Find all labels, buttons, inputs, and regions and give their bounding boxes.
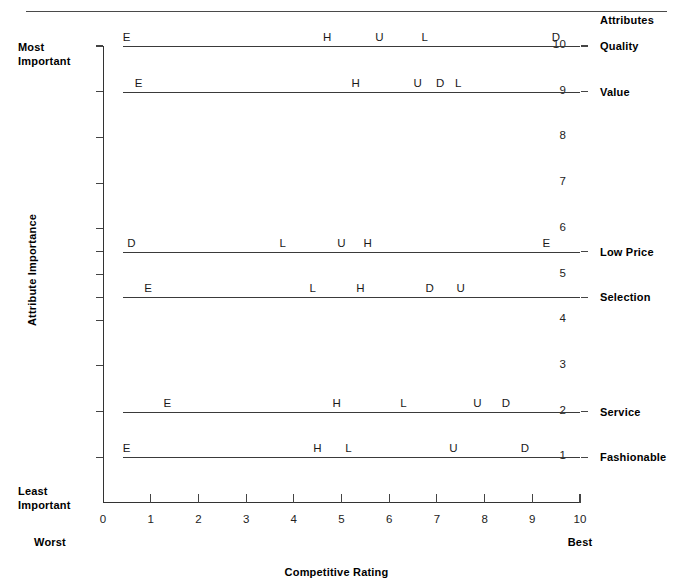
x-axis-high-label: Best xyxy=(530,536,630,548)
data-marker-L: L xyxy=(422,31,429,43)
data-marker-L: L xyxy=(279,237,286,249)
data-marker-H: H xyxy=(323,31,332,43)
data-marker-D: D xyxy=(502,397,511,409)
data-marker-H: H xyxy=(356,282,365,294)
plot-area: 12345678910 012345678910 QualityEHULDVal… xyxy=(103,46,580,503)
series-label-fashionable: Fashionable xyxy=(600,451,666,463)
data-marker-L: L xyxy=(455,77,462,89)
series-right-tick xyxy=(581,411,588,412)
series-axis-tick xyxy=(96,411,103,412)
series-line xyxy=(123,457,580,458)
x-tick-label-8: 8 xyxy=(465,513,505,525)
y-axis-low-label-line2: Important xyxy=(18,499,71,511)
x-tick-label-2: 2 xyxy=(178,513,218,525)
x-tick-label-3: 3 xyxy=(226,513,266,525)
x-tick-3 xyxy=(246,494,247,503)
y-tick-3 xyxy=(96,365,103,366)
y-tick-label-8: 8 xyxy=(526,129,566,141)
chart-container: Attributes Most Important Least Importan… xyxy=(0,0,673,588)
x-tick-label-4: 4 xyxy=(274,513,314,525)
x-tick-label-5: 5 xyxy=(322,513,362,525)
y-axis-high-label-line1: Most xyxy=(18,41,44,53)
data-marker-E: E xyxy=(123,31,131,43)
data-marker-U: U xyxy=(337,237,346,249)
y-axis-high-label-line2: Important xyxy=(18,55,71,67)
series-line xyxy=(123,297,580,298)
y-tick-label-2: 2 xyxy=(526,404,566,416)
x-tick-6 xyxy=(389,494,390,503)
y-axis-title: Attribute Importance xyxy=(26,200,38,340)
data-marker-H: H xyxy=(332,397,341,409)
x-tick-label-1: 1 xyxy=(131,513,171,525)
y-axis-line xyxy=(103,46,104,503)
header-divider xyxy=(26,11,667,12)
x-tick-label-10: 10 xyxy=(560,513,600,525)
series-line xyxy=(123,412,580,413)
series-right-tick xyxy=(581,91,588,92)
series-right-tick xyxy=(581,251,588,252)
data-marker-D: D xyxy=(552,31,561,43)
y-tick-6 xyxy=(96,228,103,229)
data-marker-U: U xyxy=(449,442,458,454)
x-tick-9 xyxy=(532,494,533,503)
data-marker-D: D xyxy=(127,237,136,249)
y-axis-high-label: Most Important xyxy=(18,40,71,68)
x-tick-label-7: 7 xyxy=(417,513,457,525)
x-tick-label-9: 9 xyxy=(512,513,552,525)
y-tick-label-9: 9 xyxy=(526,84,566,96)
series-line xyxy=(123,92,580,93)
data-marker-E: E xyxy=(123,442,131,454)
data-marker-L: L xyxy=(310,282,317,294)
attributes-header: Attributes xyxy=(600,14,654,26)
series-axis-tick xyxy=(96,297,103,298)
data-marker-L: L xyxy=(345,442,352,454)
data-marker-H: H xyxy=(313,442,322,454)
data-marker-E: E xyxy=(543,237,551,249)
series-line xyxy=(123,46,580,47)
x-tick-label-6: 6 xyxy=(369,513,409,525)
series-label-selection: Selection xyxy=(600,291,651,303)
x-tick-4 xyxy=(293,494,294,503)
x-tick-1 xyxy=(150,494,151,503)
x-tick-label-0: 0 xyxy=(83,513,123,525)
series-line xyxy=(123,252,580,253)
y-tick-label-1: 1 xyxy=(526,449,566,461)
data-marker-H: H xyxy=(351,77,360,89)
y-axis-low-label: Least Important xyxy=(18,484,71,512)
data-marker-U: U xyxy=(456,282,465,294)
x-tick-7 xyxy=(436,494,437,503)
y-tick-4 xyxy=(96,320,103,321)
series-axis-tick xyxy=(96,251,103,252)
y-axis-low-label-line1: Least xyxy=(18,485,48,497)
data-marker-E: E xyxy=(135,77,143,89)
series-right-tick xyxy=(581,457,588,458)
data-marker-E: E xyxy=(163,397,171,409)
data-marker-D: D xyxy=(521,442,530,454)
data-marker-U: U xyxy=(414,77,423,89)
x-tick-5 xyxy=(341,494,342,503)
x-tick-2 xyxy=(198,494,199,503)
data-marker-L: L xyxy=(400,397,407,409)
series-right-tick xyxy=(581,45,588,46)
y-tick-label-6: 6 xyxy=(526,221,566,233)
series-label-service: Service xyxy=(600,406,641,418)
data-marker-U: U xyxy=(473,397,482,409)
series-label-value: Value xyxy=(600,86,630,98)
series-label-low-price: Low Price xyxy=(600,246,654,258)
x-tick-8 xyxy=(484,494,485,503)
data-marker-D: D xyxy=(436,77,445,89)
data-marker-U: U xyxy=(375,31,384,43)
y-tick-7 xyxy=(96,183,103,184)
y-tick-label-3: 3 xyxy=(526,358,566,370)
series-axis-tick xyxy=(96,45,103,46)
x-tick-10 xyxy=(579,494,580,503)
data-marker-D: D xyxy=(425,282,434,294)
x-axis-title: Competitive Rating xyxy=(0,566,673,578)
series-right-tick xyxy=(581,297,588,298)
data-marker-H: H xyxy=(363,237,372,249)
series-label-quality: Quality xyxy=(600,40,639,52)
y-tick-label-5: 5 xyxy=(526,267,566,279)
y-tick-label-7: 7 xyxy=(526,175,566,187)
data-marker-E: E xyxy=(144,282,152,294)
y-tick-8 xyxy=(96,137,103,138)
